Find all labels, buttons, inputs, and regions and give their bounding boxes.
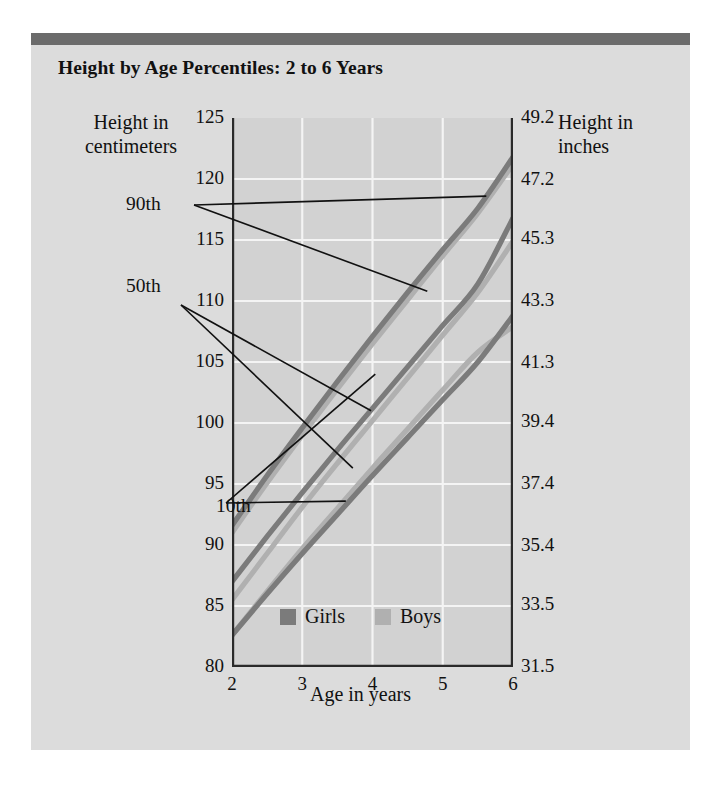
annotation-leader-line	[194, 196, 486, 205]
percentile-annotation-p10: 10th	[216, 495, 251, 517]
percentile-annotation-p50: 50th	[126, 275, 161, 297]
percentile-annotation-p90: 90th	[126, 193, 161, 215]
annotation-leader-lines	[31, 33, 690, 750]
annotation-leader-line	[226, 374, 375, 503]
figure-panel: Height by Age Percentiles: 2 to 6 Years …	[31, 33, 690, 750]
figure-root: Height by Age Percentiles: 2 to 6 Years …	[0, 0, 709, 790]
annotation-leader-line	[194, 205, 427, 291]
